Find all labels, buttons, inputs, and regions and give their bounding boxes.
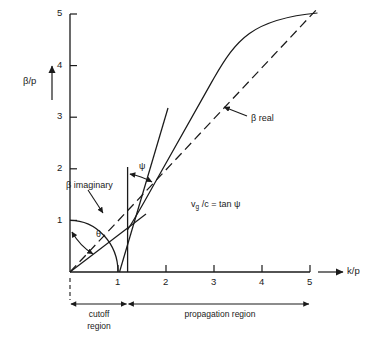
psi-label: ψ <box>139 161 145 171</box>
beta-imaginary-label: β imaginary <box>66 180 113 190</box>
y-tick-label-3: 3 <box>57 111 62 121</box>
x-tick-label-3: 3 <box>211 277 216 287</box>
region-rulers <box>70 278 309 304</box>
group-velocity-equation: vg /c = tan ψ <box>191 199 240 212</box>
cutoff-region-label-line2: region <box>75 321 123 331</box>
beta-real-curve <box>128 13 318 230</box>
x-tick-label-1: 1 <box>115 277 120 287</box>
x-axis-title: k/p <box>347 266 360 276</box>
dispersion-diagram-figure: 5 4 3 2 1 1 2 3 4 5 β/p k/p β real β ima… <box>0 0 379 341</box>
x-tick-label-2: 2 <box>163 277 168 287</box>
beta-imaginary-leader-arrow <box>88 190 103 213</box>
x-tick-label-5: 5 <box>307 277 312 287</box>
group-velocity-tangent <box>120 108 169 272</box>
beta-real-label: β real <box>251 113 274 123</box>
y-axis-title: β/p <box>23 76 36 86</box>
y-tick-label-5: 5 <box>57 8 62 18</box>
equation-remainder: /c = tan ψ <box>199 199 240 209</box>
y-tick-label-2: 2 <box>57 163 62 173</box>
x-tick-label-4: 4 <box>259 277 264 287</box>
propagation-region-label: propagation region <box>165 309 275 319</box>
y-tick-label-4: 4 <box>57 60 62 70</box>
cutoff-region-label-line1: cutoff <box>75 309 123 319</box>
light-line-dashed <box>70 8 318 272</box>
beta-real-leader-arrow <box>224 107 247 116</box>
x-axis-ticks <box>118 265 310 272</box>
theta-label: θ <box>96 229 101 239</box>
axis-lines <box>70 14 310 272</box>
y-tick-label-1: 1 <box>57 215 62 225</box>
